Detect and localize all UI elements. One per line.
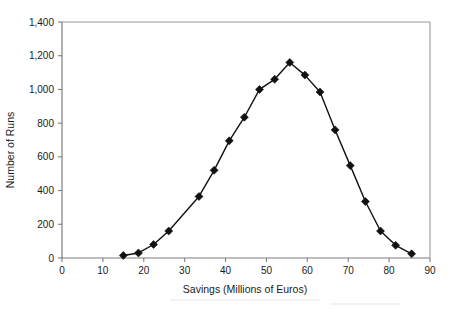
x-tick-label: 60 <box>302 265 314 276</box>
y-tick-label: 1,000 <box>29 84 54 95</box>
x-tick-label: 20 <box>138 265 150 276</box>
line-chart: 0102030405060708090 02004006008001,0001,… <box>0 0 452 310</box>
y-tick-label: 400 <box>37 185 54 196</box>
scan-artifact-secondary <box>330 303 400 305</box>
chart-container: 0102030405060708090 02004006008001,0001,… <box>0 0 452 310</box>
y-tick-label: 1,200 <box>29 50 54 61</box>
x-tick-label: 40 <box>220 265 232 276</box>
x-tick-label: 10 <box>97 265 109 276</box>
x-tick-label: 30 <box>179 265 191 276</box>
x-tick-label: 80 <box>384 265 396 276</box>
y-tick-label: 800 <box>37 118 54 129</box>
x-tick-label: 0 <box>59 265 65 276</box>
x-tick-label: 70 <box>343 265 355 276</box>
y-tick-label: 1,400 <box>29 17 54 28</box>
x-axis-title: Savings (Millions of Euros) <box>183 283 307 295</box>
y-tick-label: 600 <box>37 151 54 162</box>
x-tick-label: 50 <box>261 265 273 276</box>
y-tick-label: 200 <box>37 219 54 230</box>
chart-background <box>0 0 452 310</box>
y-tick-label: 0 <box>48 253 54 264</box>
scan-artifact <box>170 299 320 301</box>
x-tick-label: 90 <box>424 265 436 276</box>
y-axis-title: Number of Runs <box>4 112 16 188</box>
